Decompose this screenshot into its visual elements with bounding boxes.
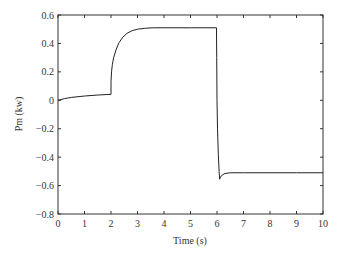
series-line bbox=[58, 28, 323, 179]
series-pm bbox=[58, 28, 323, 179]
x-axis: 012345678910 bbox=[56, 15, 329, 229]
y-tick-label: 0.4 bbox=[42, 38, 55, 49]
x-tick-label: 1 bbox=[82, 218, 87, 229]
line-chart: 012345678910 0.60.40.20−0.2−0.4−0.6−0.8 … bbox=[0, 0, 345, 255]
x-tick-label: 0 bbox=[56, 218, 61, 229]
y-axis-title: Pm (kw) bbox=[13, 97, 25, 132]
x-tick-label: 8 bbox=[268, 218, 273, 229]
y-axis: 0.60.40.20−0.2−0.4−0.6−0.8 bbox=[36, 10, 323, 220]
x-tick-label: 5 bbox=[188, 218, 193, 229]
y-tick-label: 0.6 bbox=[42, 10, 55, 21]
x-tick-label: 6 bbox=[215, 218, 220, 229]
x-tick-label: 9 bbox=[294, 218, 299, 229]
y-tick-label: −0.8 bbox=[36, 209, 54, 220]
y-tick-label: −0.6 bbox=[36, 180, 54, 191]
x-tick-label: 7 bbox=[241, 218, 246, 229]
y-tick-label: 0.2 bbox=[42, 66, 55, 77]
x-tick-label: 10 bbox=[318, 218, 328, 229]
plot-border bbox=[58, 15, 323, 214]
y-tick-label: −0.4 bbox=[36, 152, 54, 163]
y-tick-label: −0.2 bbox=[36, 123, 54, 134]
plot-area bbox=[58, 15, 323, 214]
x-axis-title: Time (s) bbox=[173, 235, 207, 247]
x-tick-label: 3 bbox=[135, 218, 140, 229]
x-tick-label: 2 bbox=[109, 218, 114, 229]
y-tick-label: 0 bbox=[49, 95, 54, 106]
x-tick-label: 4 bbox=[162, 218, 167, 229]
